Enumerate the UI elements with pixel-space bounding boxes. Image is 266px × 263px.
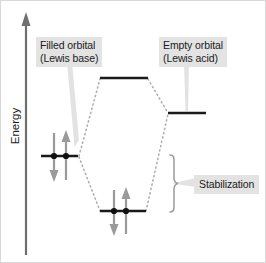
electron-dot: [63, 153, 69, 159]
energy-axis: [22, 12, 31, 255]
level-bonding-orbital-group: [100, 187, 146, 236]
mo-energy-diagram: Filled orbital (Lewis base) Empty orbita…: [0, 0, 266, 263]
electron-dot: [123, 208, 129, 214]
electron-dot: [111, 208, 117, 214]
energy-axis-label: Energy: [9, 96, 21, 156]
correlation-lines: [79, 79, 168, 211]
leader-filled-orbital: [67, 62, 79, 147]
callout-filled-orbital: Filled orbital (Lewis base): [36, 37, 102, 67]
leader-empty-orbital: [184, 62, 189, 111]
callout-stabilization: Stabilization: [194, 175, 259, 194]
callout-empty-orbital: Empty orbital (Lewis acid): [159, 37, 227, 67]
level-filled-orbital-group: [41, 130, 78, 182]
electron-dot: [51, 153, 57, 159]
